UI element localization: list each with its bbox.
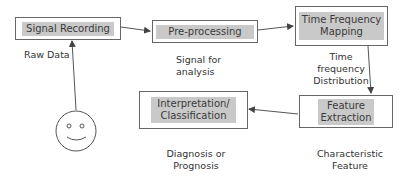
annotation-signal-for-analysis: Signal for analysis (176, 54, 221, 78)
node-signal-recording: Signal Recording (15, 17, 121, 40)
node-time-frequency-mapping: Time Frequency Mapping (295, 6, 388, 46)
annotation-diagnosis-or-prognosis: Diagnosis or Prognosis (155, 148, 237, 172)
annotation-raw-data: Raw Data (24, 49, 70, 61)
smiley-face-icon (56, 111, 96, 151)
node-label: Time Frequency Mapping (299, 12, 384, 40)
annotation-time-frequency-distribution: Time frequency Distribution (305, 51, 377, 87)
annotation-characteristic-feature: Characteristic Feature (309, 148, 391, 172)
node-label: Interpretation/ Classification (151, 97, 235, 123)
arrow-feature-to-interpretation (249, 109, 298, 114)
node-label: Feature Extraction (318, 99, 373, 125)
node-label: Pre-processing (156, 25, 253, 39)
arrow-preprocessing-to-tfmapping (258, 26, 293, 30)
node-label: Signal Recording (22, 22, 114, 36)
arrow-patient-to-recording (72, 41, 76, 110)
arrow-recording-to-preprocessing (121, 27, 150, 31)
node-feature-extraction: Feature Extraction (299, 95, 393, 128)
node-pre-processing: Pre-processing (152, 20, 258, 43)
node-interpretation-classification: Interpretation/ Classification (139, 91, 248, 129)
